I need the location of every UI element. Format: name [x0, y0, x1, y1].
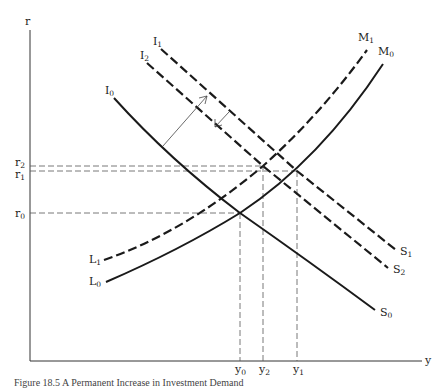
label-i1: I1 — [153, 35, 162, 49]
lm-curves — [104, 50, 383, 282]
r-labels: r2 r1 r0 — [15, 156, 25, 221]
label-l1: L1 — [89, 253, 101, 267]
label-m0: M0 — [378, 45, 394, 59]
label-s0: S0 — [380, 306, 393, 320]
label-s2: S2 — [393, 263, 406, 277]
arrow-i1-to-i2 — [215, 112, 229, 127]
is-curve-1 — [161, 49, 396, 250]
axes: r y — [25, 15, 432, 367]
y0-label: y0 — [234, 363, 246, 377]
y-guides — [240, 166, 297, 361]
label-m1: M1 — [358, 31, 374, 45]
lm-curve-0 — [106, 64, 383, 282]
shift-arrows — [163, 96, 229, 146]
r-guides — [30, 166, 297, 213]
y1-label: y1 — [292, 363, 304, 377]
y2-label: y2 — [258, 363, 270, 377]
arrow-i0-to-i1 — [163, 96, 207, 146]
label-i2: I2 — [140, 49, 149, 63]
label-s1: S1 — [400, 245, 412, 259]
label-l0: L0 — [89, 275, 101, 289]
y-axis-label: r — [25, 15, 31, 28]
lm-curve-1 — [104, 50, 367, 260]
x-axis-label: y — [424, 354, 432, 367]
figure-caption: Figure 18.5 A Permanent Increase in Inve… — [14, 377, 243, 388]
r0-label: r0 — [15, 207, 25, 221]
is-curve-0 — [114, 98, 375, 310]
r1-label: r1 — [15, 168, 25, 182]
y-labels: y0 y2 y1 — [234, 363, 304, 377]
is-curves — [114, 49, 396, 310]
label-i0: I0 — [105, 84, 114, 98]
